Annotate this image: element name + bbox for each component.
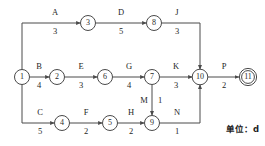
- node-5-label: 5: [108, 118, 112, 127]
- node-1-label: 1: [20, 72, 24, 81]
- edge-label-A-duration: 3: [53, 26, 57, 36]
- node-1[interactable]: 1: [15, 70, 30, 85]
- node-8-label: 8: [152, 18, 156, 27]
- edge-label-B-name: B: [36, 61, 42, 71]
- edge-label-N-duration: 1: [175, 126, 179, 136]
- node-9[interactable]: 9: [145, 116, 160, 131]
- edge-label-P-duration: 2: [222, 80, 226, 90]
- edge-label-J-duration: 3: [175, 26, 179, 36]
- node-3-label: 3: [86, 18, 90, 27]
- node-4-label: 4: [60, 118, 64, 127]
- edge-label-P-name: P: [222, 61, 227, 71]
- edge-label-B-duration: 4: [37, 80, 42, 90]
- edge-label-D-name: D: [118, 7, 124, 17]
- unit-note: 单位：d: [226, 122, 259, 134]
- node-4[interactable]: 4: [55, 116, 70, 131]
- edge-label-K-name: K: [173, 61, 180, 71]
- node-5[interactable]: 5: [103, 116, 118, 131]
- node-2[interactable]: 2: [50, 70, 65, 85]
- edge-label-E-name: E: [78, 61, 83, 71]
- edge-label-M-duration: 1: [158, 95, 162, 105]
- edge-label-G-name: G: [126, 61, 132, 71]
- edge-label-C-name: C: [37, 107, 43, 117]
- edge-label-G-duration: 4: [127, 80, 132, 90]
- edge-label-E-duration: 3: [79, 80, 83, 90]
- edge-path-A: [22, 23, 81, 77]
- edge-path-J: [162, 23, 201, 70]
- edge-path-N: [160, 85, 201, 124]
- edge-label-D-duration: 5: [119, 26, 123, 36]
- edge-label-N-name: N: [174, 107, 180, 117]
- edge-label-F-duration: 2: [84, 126, 88, 136]
- node-9-label: 9: [150, 118, 154, 127]
- edge-label-H-duration: 2: [129, 126, 133, 136]
- edge-label-F-name: F: [84, 107, 89, 117]
- edge-label-A-name: A: [52, 7, 59, 17]
- network-diagram-canvas: 1 2 3 4 5 6 7 8: [0, 0, 265, 146]
- node-6-label: 6: [103, 72, 107, 81]
- node-8[interactable]: 8: [147, 16, 162, 31]
- node-7[interactable]: 7: [145, 70, 160, 85]
- edge-label-M-name: M: [140, 95, 148, 105]
- edge-label-K-duration: 3: [174, 80, 178, 90]
- node-10-label: 10: [196, 72, 204, 81]
- edge-label-C-duration: 5: [38, 126, 42, 136]
- edge-label-H-name: H: [128, 107, 134, 117]
- node-6[interactable]: 6: [98, 70, 113, 85]
- node-11[interactable]: 11: [239, 68, 256, 85]
- node-11-label: 11: [244, 72, 252, 81]
- node-7-label: 7: [150, 72, 154, 81]
- node-3[interactable]: 3: [81, 16, 96, 31]
- edge-label-J-name: J: [175, 7, 179, 17]
- node-2-label: 2: [55, 72, 59, 81]
- node-10[interactable]: 10: [192, 69, 208, 85]
